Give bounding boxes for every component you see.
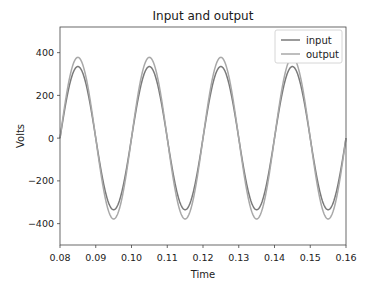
x-tick-label: 0.09 [85,252,106,263]
x-tick-label: 0.13 [228,252,249,263]
x-tick-label: 0.16 [335,252,356,263]
x-tick-label: 0.11 [157,252,178,263]
series-layer [60,57,346,219]
x-tick-label: 0.14 [264,252,285,263]
x-axis-ticks: 0.080.090.100.110.120.130.140.150.16 [49,245,356,263]
y-tick-label: 400 [36,47,54,58]
legend-input-label: input [306,35,332,46]
chart-title: Input and output [153,9,254,23]
y-axis-ticks: 4002000−200−400 [28,47,60,229]
x-tick-label: 0.08 [49,252,70,263]
x-tick-label: 0.12 [192,252,213,263]
x-tick-label: 0.10 [121,252,142,263]
chart: Input and output 0.080.090.100.110.120.1… [0,0,369,293]
x-tick-label: 0.15 [300,252,321,263]
y-tick-label: −400 [28,218,54,229]
y-tick-label: 0 [48,133,54,144]
legend: input output [275,30,342,63]
legend-output-label: output [306,49,339,60]
x-axis-label: Time [190,269,215,280]
y-tick-label: 200 [36,90,54,101]
y-tick-label: −200 [28,175,54,186]
series-output [60,57,346,219]
y-axis-label: Volts [15,124,26,148]
